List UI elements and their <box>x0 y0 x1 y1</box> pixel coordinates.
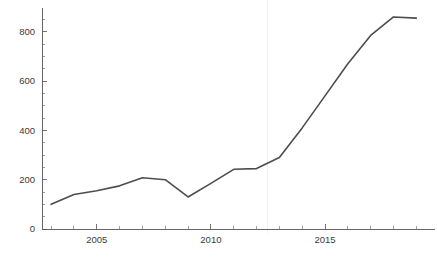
chart-plot-area: 0200400600800 200520102015 <box>0 0 437 259</box>
line-chart: 0200400600800 200520102015 <box>0 0 437 259</box>
y-tick-label: 0 <box>30 223 35 234</box>
y-tick-label: 600 <box>19 75 35 86</box>
y-tick-label: 400 <box>19 125 35 136</box>
x-tick-label: 2005 <box>86 234 107 245</box>
y-tick-label: 800 <box>19 26 35 37</box>
x-tick-label: 2015 <box>314 234 335 245</box>
x-tick-label: 2010 <box>200 234 221 245</box>
chart-background <box>0 0 437 259</box>
y-tick-label: 200 <box>19 174 35 185</box>
